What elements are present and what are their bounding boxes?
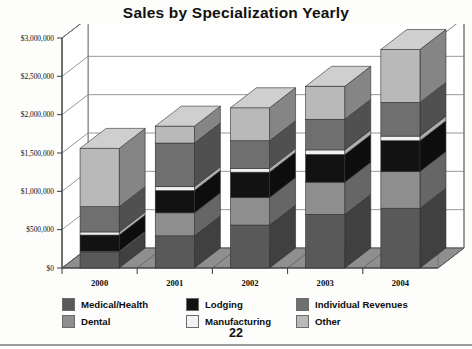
bar-column	[155, 106, 220, 268]
legend-swatch-icon	[62, 298, 75, 311]
bar-column	[230, 88, 295, 268]
x-axis-tick-label: 2001	[166, 278, 183, 288]
chart-plot-area: $0$500,000$1,000,000$1,500,000$2,000,000…	[0, 24, 472, 292]
page-footer-rule	[0, 344, 472, 346]
legend-column: LodgingManufacturing	[186, 296, 271, 330]
x-axis-tick-label: 2003	[317, 278, 334, 288]
legend-item[interactable]: Medical/Health	[62, 296, 148, 313]
y-axis-tick-label: $1,000,000	[21, 187, 55, 196]
y-axis-tick-label: $2,500,000	[21, 72, 55, 81]
x-axis-tick-label: 2000	[91, 278, 108, 288]
scanned-page: Sales by Specialization Yearly $0$500,00…	[0, 0, 472, 349]
y-axis-tick-label: $500,000	[26, 225, 54, 234]
legend-label: Lodging	[205, 299, 243, 310]
page-number: 22	[0, 326, 472, 340]
x-axis-tick-label: 2002	[241, 278, 258, 288]
page-title: Sales by Specialization Yearly	[0, 4, 472, 22]
stacked-bar-chart: $0$500,000$1,000,000$1,500,000$2,000,000…	[0, 24, 472, 292]
legend-label: Medical/Health	[81, 299, 148, 310]
legend-column: Medical/HealthDental	[62, 296, 148, 330]
y-axis-tick-label: $3,000,000	[21, 34, 55, 43]
x-axis-tick-label: 2004	[392, 278, 410, 288]
bar-column	[381, 30, 446, 269]
bar-column	[80, 128, 145, 268]
legend-item[interactable]: Individual Revenues	[296, 296, 408, 313]
legend-item[interactable]: Lodging	[186, 296, 271, 313]
legend-swatch-icon	[186, 298, 199, 311]
legend-swatch-icon	[296, 298, 309, 311]
y-axis-tick-label: $2,000,000	[21, 110, 55, 119]
y-axis-tick-label: $1,500,000	[21, 149, 55, 158]
y-axis-tick-label: $0	[47, 264, 55, 273]
legend-column: Individual RevenuesOther	[296, 296, 408, 330]
legend-label: Individual Revenues	[315, 299, 408, 310]
bar-column	[306, 66, 371, 268]
